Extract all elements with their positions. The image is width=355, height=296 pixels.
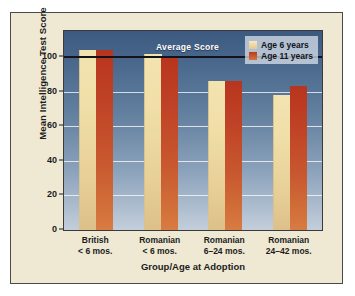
plot-area: Average Score Age 6 years Age 11 years (63, 30, 323, 231)
bar-1-1 (161, 57, 178, 230)
x-tick-label-2: Romanian6–24 mos. (192, 235, 257, 257)
bar-1-2 (225, 81, 242, 230)
bar-0-1 (144, 54, 162, 231)
y-tick-label-20: 20 (15, 189, 57, 199)
bar-0-2 (208, 81, 226, 230)
legend-label-age-6: Age 6 years (261, 40, 309, 50)
x-tick-label-0-line-0: British (63, 235, 128, 246)
x-tick-label-1: Romanian< 6 mos. (128, 235, 193, 257)
x-tick-label-3-line-1: 24–42 mos. (257, 246, 322, 257)
chart-figure: Mean Intelligence Test Score 02040608010… (10, 12, 343, 284)
legend-item-age-6: Age 6 years (249, 39, 313, 50)
bar-1-3 (290, 86, 307, 230)
x-tick-label-3: Romanian24–42 mos. (257, 235, 322, 257)
x-tick-label-3-line-0: Romanian (257, 235, 322, 246)
bar-1-0 (96, 50, 113, 230)
y-tick-label-100: 100 (15, 51, 57, 61)
chart-legend: Age 6 years Age 11 years (245, 36, 318, 64)
y-tick-label-40: 40 (15, 155, 57, 165)
x-tick-label-2-line-1: 6–24 mos. (192, 246, 257, 257)
x-tick-label-1-line-1: < 6 mos. (128, 246, 193, 257)
bar-0-3 (273, 95, 291, 230)
bar-0-0 (79, 50, 97, 230)
x-tick-label-1-line-0: Romanian (128, 235, 193, 246)
y-tick-label-60: 60 (15, 120, 57, 130)
average-score-label: Average Score (156, 42, 219, 52)
y-tick-label-80: 80 (15, 86, 57, 96)
y-tick-label-0: 0 (15, 224, 57, 234)
legend-item-age-11: Age 11 years (249, 50, 313, 61)
legend-swatch-icon-age-6 (249, 41, 257, 49)
x-tick-label-0: British< 6 mos. (63, 235, 128, 257)
x-axis-title: Group/Age at Adoption (63, 261, 323, 272)
legend-label-age-11: Age 11 years (261, 51, 313, 61)
legend-swatch-icon-age-11 (249, 52, 257, 60)
x-tick-label-2-line-0: Romanian (192, 235, 257, 246)
x-tick-label-0-line-1: < 6 mos. (63, 246, 128, 257)
